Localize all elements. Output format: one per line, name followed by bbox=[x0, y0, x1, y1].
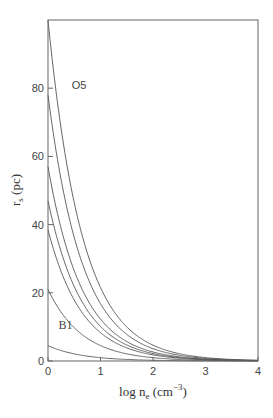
annotation-b1: B1 bbox=[59, 318, 73, 332]
x-tick-label: 1 bbox=[97, 365, 103, 377]
y-tick-label: 80 bbox=[32, 82, 44, 94]
curve-series-4 bbox=[48, 230, 258, 361]
curve-series-1 bbox=[48, 95, 258, 360]
y-axis-label: rs (pc) bbox=[8, 174, 25, 206]
curve-series-5 bbox=[48, 289, 258, 360]
x-tick-label: 2 bbox=[150, 365, 156, 377]
x-axis-label: log ne (cm−3) bbox=[119, 382, 187, 401]
y-tick-label: 60 bbox=[32, 150, 44, 162]
annotation-o5: O5 bbox=[72, 79, 87, 91]
tick-labels: 01234020406080 bbox=[32, 82, 261, 377]
x-tick-label: 3 bbox=[202, 365, 208, 377]
strömgren-radius-chart: 01234020406080 O5B1 log ne (cm−3) rs (pc… bbox=[0, 0, 273, 418]
curve-annotations: O5B1 bbox=[59, 79, 87, 332]
y-tick-label: 0 bbox=[38, 355, 44, 367]
curve-group bbox=[48, 20, 258, 361]
y-tick-label: 20 bbox=[32, 287, 44, 299]
x-tick-label: 4 bbox=[255, 365, 261, 377]
x-tick-label: 0 bbox=[45, 365, 51, 377]
y-tick-label: 40 bbox=[32, 219, 44, 231]
plot-frame bbox=[48, 20, 258, 361]
curve-series-2 bbox=[48, 167, 258, 361]
